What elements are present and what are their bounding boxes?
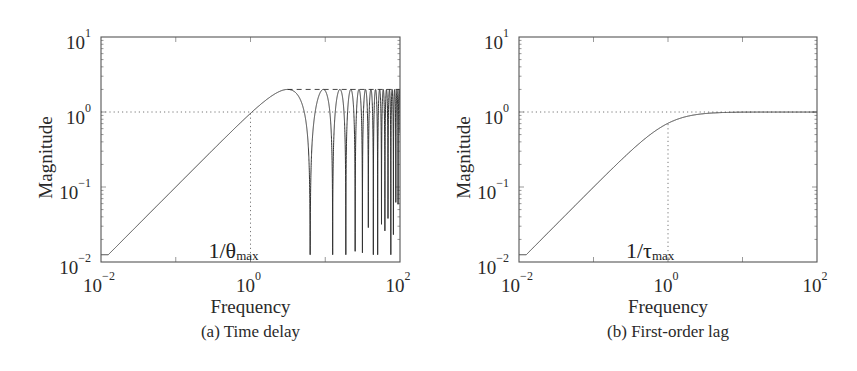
y-tick-label: 100 xyxy=(66,101,91,128)
panel-caption: (a) Time delay xyxy=(201,322,301,341)
y-tick-label: 101 xyxy=(66,26,91,53)
figure: 10−210−110010110−2100102FrequencyMagnitu… xyxy=(0,0,857,371)
panel-first-order-lag: 10−210−110010110−2100102FrequencyMagnitu… xyxy=(453,26,828,341)
y-tick-label: 10−1 xyxy=(477,176,509,203)
annotation-label: 1/θmax xyxy=(209,238,260,263)
y-axis-label: Magnitude xyxy=(35,116,56,198)
x-tick-label: 10−2 xyxy=(83,269,115,296)
y-tick-label: 10−2 xyxy=(477,251,509,278)
x-axis-label: Frequency xyxy=(210,296,291,317)
panel-time-delay: 10−210−110010110−2100102FrequencyMagnitu… xyxy=(35,26,411,341)
x-axis-label: Frequency xyxy=(628,296,709,317)
y-axis-label: Magnitude xyxy=(453,116,474,198)
y-tick-label: 101 xyxy=(484,26,509,53)
panel-caption: (b) First-order lag xyxy=(607,322,729,341)
y-tick-label: 10−2 xyxy=(59,251,91,278)
x-tick-label: 102 xyxy=(386,269,411,296)
y-tick-label: 10−1 xyxy=(59,176,91,203)
x-tick-label: 102 xyxy=(803,269,828,296)
x-tick-label: 10−2 xyxy=(501,269,533,296)
x-tick-label: 100 xyxy=(654,269,679,296)
y-tick-label: 100 xyxy=(484,101,509,128)
x-tick-label: 100 xyxy=(236,269,261,296)
